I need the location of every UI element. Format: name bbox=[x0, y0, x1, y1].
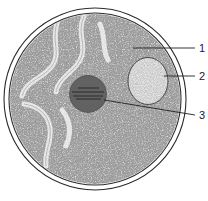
cell-nucleus-diagram: 1 2 3 bbox=[0, 0, 208, 201]
label-number-1: 1 bbox=[199, 42, 205, 54]
nucleolus bbox=[70, 76, 107, 113]
label-number-2: 2 bbox=[199, 70, 205, 82]
label-number-3: 3 bbox=[199, 109, 205, 121]
inner-vesicle bbox=[128, 58, 168, 105]
